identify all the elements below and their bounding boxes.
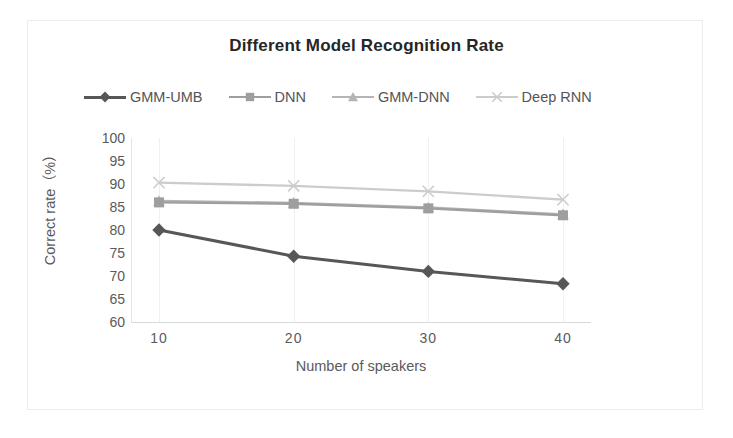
legend-label: GMM-DNN [378,89,450,105]
data-point-marker [423,203,433,213]
square-marker-icon [229,90,271,104]
x-tick-label: 20 [272,330,316,346]
series-layer [131,138,591,322]
legend-item-gmm-umb[interactable]: GMM-UMB [84,89,203,105]
y-tick-label: 90 [91,176,125,192]
x-axis-label: Number of speakers [131,358,591,374]
plot-area [131,138,591,322]
diamond-marker-icon [84,90,126,104]
legend-item-gmm-dnn[interactable]: GMM-DNN [332,89,450,105]
y-tick-label: 80 [91,222,125,238]
y-tick-label: 60 [91,314,125,330]
data-point-marker [152,223,165,236]
data-point-marker [558,210,568,220]
y-tick-label: 75 [91,245,125,261]
chart-figure: Different Model Recognition Rate GMM-UMB… [0,0,733,438]
series-gmm-umb [152,223,569,290]
y-tick-label: 70 [91,268,125,284]
data-point-marker [422,265,435,278]
series-line [159,230,563,284]
x-axis-line [131,322,591,323]
x-tick-label: 30 [406,330,450,346]
legend-label: GMM-UMB [130,89,203,105]
y-tick-label: 65 [91,291,125,307]
legend-item-dnn[interactable]: DNN [229,89,306,105]
x-axis-ticks: 10203040 [131,330,591,352]
legend-item-deep rnn[interactable]: Deep RNN [476,89,592,105]
y-tick-label: 95 [91,153,125,169]
y-axis-label: Correct rate（%） [38,137,59,277]
chart-legend: GMM-UMBDNNGMM-DNNDeep RNN [84,86,644,108]
legend-label: DNN [275,89,306,105]
x-tick-label: 40 [541,330,585,346]
y-tick-label: 85 [91,199,125,215]
legend-label: Deep RNN [522,89,592,105]
y-axis-ticks: 1009590858075706560 [89,138,125,322]
data-point-marker [556,277,569,290]
data-point-marker [154,197,164,207]
data-point-marker [289,199,299,209]
x-marker-icon [476,90,518,104]
data-point-marker [287,250,300,263]
series-line [159,183,563,200]
chart-title: Different Model Recognition Rate [0,36,733,56]
y-tick-label: 100 [91,130,125,146]
x-tick-label: 10 [137,330,181,346]
triangle-marker-icon [332,90,374,104]
